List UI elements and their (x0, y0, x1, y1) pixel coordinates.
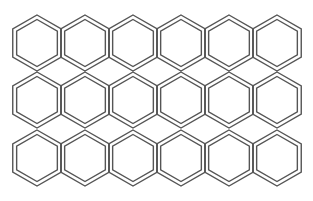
hexagon-inner-outline (65, 77, 106, 124)
hexagon-inner-outline (65, 20, 106, 67)
hexagon-outer-outline (13, 72, 62, 128)
hexagon-cell (109, 130, 158, 186)
hexagon-outer-outline (157, 15, 206, 71)
hexagon-inner-outline (257, 77, 298, 124)
hexagon-outer-outline (13, 130, 62, 186)
hexagon-outer-outline (109, 130, 158, 186)
hexagon-cell (13, 15, 62, 71)
hexagon-cell (205, 72, 254, 128)
hexagon-cell (13, 72, 62, 128)
hexagon-outer-outline (253, 15, 302, 71)
hexagon-outer-outline (61, 130, 110, 186)
hexagon-cell (157, 72, 206, 128)
hexagon-outer-outline (205, 15, 254, 71)
hexagon-outer-outline (61, 72, 110, 128)
hexagon-inner-outline (257, 135, 298, 182)
hexagon-outer-outline (253, 130, 302, 186)
hexagon-inner-outline (17, 135, 58, 182)
hexagon-cell (253, 130, 302, 186)
hexagon-outer-outline (205, 72, 254, 128)
hexagon-outer-outline (205, 130, 254, 186)
hexagon-outer-outline (109, 15, 158, 71)
hexagon-inner-outline (65, 135, 106, 182)
hexagon-cell (205, 15, 254, 71)
hexagon-inner-outline (113, 20, 154, 67)
hexagon-inner-outline (209, 135, 250, 182)
hexagon-inner-outline (209, 77, 250, 124)
hexagon-inner-outline (161, 135, 202, 182)
hexagon-cell (61, 72, 110, 128)
hexagon-inner-outline (209, 20, 250, 67)
hexagon-inner-outline (161, 20, 202, 67)
hexagon-inner-outline (17, 20, 58, 67)
hexagon-inner-outline (17, 77, 58, 124)
hexagon-cell (253, 72, 302, 128)
hexagon-cell (157, 130, 206, 186)
hexagon-inner-outline (113, 135, 154, 182)
hexagon-outer-outline (157, 72, 206, 128)
hexagon-cell (205, 130, 254, 186)
hexagon-cell (61, 130, 110, 186)
hexagon-cell (13, 130, 62, 186)
hexagon-inner-outline (161, 77, 202, 124)
hexagon-cell (253, 15, 302, 71)
hexagon-inner-outline (257, 20, 298, 67)
hexagon-grid (0, 0, 313, 201)
hexagon-cell (61, 15, 110, 71)
hexagon-outer-outline (109, 72, 158, 128)
hexagon-cell (109, 72, 158, 128)
hexagon-outer-outline (13, 15, 62, 71)
hexagon-outer-outline (61, 15, 110, 71)
hexagon-inner-outline (113, 77, 154, 124)
hexagon-cell (157, 15, 206, 71)
hexagon-outer-outline (253, 72, 302, 128)
hexagon-outer-outline (157, 130, 206, 186)
hexagon-cell (109, 15, 158, 71)
